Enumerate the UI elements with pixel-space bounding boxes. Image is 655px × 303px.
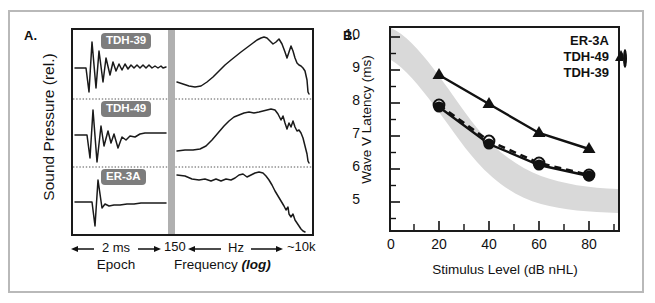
waveform-tdh39 (75, 42, 166, 92)
open-circle-icon (614, 51, 627, 64)
spectrum-er3a (177, 172, 305, 232)
panel-b: B. Wave V Latency (ms) (330, 0, 655, 303)
frequency-caption-main: Frequency (174, 257, 238, 272)
legend-item-tdh49: TDH-49 (563, 49, 627, 65)
freq-unit-label: Hz (221, 240, 251, 255)
x-tick-60: 60 (524, 236, 554, 252)
trace-label-er3a: ER-3A (101, 169, 146, 185)
x-tick-80: 80 (574, 236, 604, 252)
y-tick-5: 5 (334, 191, 360, 207)
x-tick-20: 20 (424, 236, 454, 252)
x-tick-0: 0 (376, 236, 406, 252)
spectrum-tdh49 (177, 109, 309, 163)
legend-item-tdh39: TDH-39 (563, 65, 627, 81)
trace-label-tdh39: TDH-39 (101, 33, 151, 49)
waveform-er3a (75, 180, 166, 226)
y-tick-7: 7 (334, 125, 360, 141)
legend-label-tdh39: TDH-39 (563, 65, 609, 81)
panel-a-svg (73, 30, 312, 234)
panel-b-xlabel: Stimulus Level (dB nHL) (385, 262, 625, 277)
y-tick-10: 10 (334, 26, 360, 42)
panel-b-ylabel: Wave V Latency (ms) (359, 20, 374, 220)
x-tick-40: 40 (474, 236, 504, 252)
y-tick-6: 6 (334, 158, 360, 174)
legend-label-tdh49: TDH-49 (563, 49, 609, 65)
panel-a-letter: A. (24, 28, 37, 43)
epoch-caption: Epoch (73, 257, 159, 272)
panel-b-legend: ER-3A TDH-49 TDH-39 (563, 33, 627, 81)
triangle-icon (614, 35, 627, 48)
panel-b-x-ticks-minor (414, 224, 614, 230)
time-span-label: 2 ms (95, 240, 137, 255)
frequency-caption-log: (log) (242, 257, 271, 272)
panel-a: A. Sound Pressure (rel.) (0, 0, 330, 303)
panel-a-ylabel: Sound Pressure (rel.) (40, 32, 58, 222)
figure-root: A. Sound Pressure (rel.) (0, 0, 655, 303)
legend-label-er3a: ER-3A (570, 33, 609, 49)
frequency-caption: Frequency (log) (174, 257, 271, 272)
spectrum-tdh39 (177, 37, 309, 94)
panel-a-plot-area (71, 28, 314, 236)
freq-low-label: 150 (164, 239, 186, 254)
legend-item-er3a: ER-3A (563, 33, 627, 49)
y-tick-8: 8 (334, 92, 360, 108)
y-tick-9: 9 (334, 59, 360, 75)
filled-circle-icon (614, 67, 627, 80)
panel-a-domain-separator (168, 30, 175, 234)
waveform-tdh49 (75, 110, 166, 162)
trace-label-tdh49: TDH-49 (101, 101, 151, 117)
freq-high-label: ~10k (287, 239, 316, 254)
